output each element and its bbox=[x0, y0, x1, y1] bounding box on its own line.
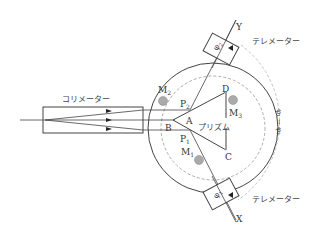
vertex-b-label: B bbox=[165, 123, 172, 133]
point-p1-label: P1 bbox=[180, 134, 190, 145]
axis-y-label: Y bbox=[235, 22, 243, 32]
telescope-top bbox=[203, 33, 239, 65]
telescope-top-label: テレメーター bbox=[252, 37, 300, 46]
mirror-m1 bbox=[195, 156, 204, 165]
mirror-m3 bbox=[229, 96, 238, 105]
point-p2-label: P2 bbox=[180, 99, 190, 110]
telescope-bottom-label: テレメーター bbox=[252, 195, 300, 204]
mirror-m1-label: M1 bbox=[181, 147, 194, 158]
vertex-c-label: C bbox=[225, 152, 232, 162]
axis-x-label: X bbox=[236, 214, 243, 224]
vertex-a-label: A bbox=[185, 116, 193, 126]
mirror-m3-label: M3 bbox=[229, 108, 242, 119]
collimator-label: コリメーター bbox=[62, 95, 110, 104]
vertex-d-label: D bbox=[222, 84, 229, 94]
angle-arc-dashed bbox=[238, 45, 280, 200]
mirror-m2 bbox=[159, 97, 168, 106]
mirror-m2-label: M2 bbox=[158, 85, 171, 96]
prism-label: プリズム bbox=[198, 122, 230, 132]
angle-difference-label: φ₁ − φ₂ bbox=[275, 109, 283, 135]
spectrometer-diagram: コリメーター テレメーター テレメーター プリズム Y X A B C D P2… bbox=[0, 0, 331, 237]
